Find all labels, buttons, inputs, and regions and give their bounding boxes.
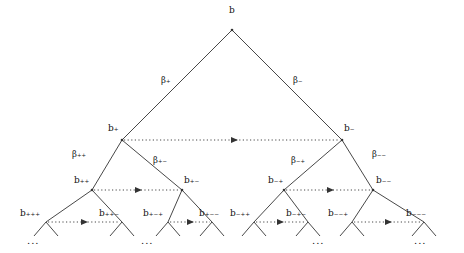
arrow-level3-b	[187, 219, 194, 225]
node-dot-pp	[91, 189, 94, 192]
arrow-level3-a	[81, 219, 88, 225]
edge-label-beta-plus-plus: β₊₊	[72, 150, 86, 159]
arrow-level3-c	[277, 219, 284, 225]
node-dot-mm	[372, 189, 375, 192]
node-label-bmmm: b₋₋₋	[406, 209, 426, 218]
node-dot-minus	[341, 139, 344, 142]
stub-mmp-left	[340, 222, 352, 236]
edge-plus-plusminus	[122, 140, 182, 190]
stub-ppp-right	[46, 222, 58, 236]
edge-root-plus	[122, 30, 232, 140]
stub-ppm-left	[110, 222, 122, 236]
ellipsis-left: ...	[27, 236, 40, 246]
stub-mpp-left	[242, 222, 254, 236]
node-label-bmp: b₋₊	[268, 176, 283, 185]
stub-mmm-left	[412, 222, 424, 236]
stub-mpp-right	[254, 222, 266, 236]
stub-ppm-right	[122, 222, 134, 236]
ellipsis-center-left: ...	[141, 236, 154, 246]
stub-mpm-left	[296, 222, 308, 236]
stub-pmp-right	[168, 222, 180, 236]
node-label-b: b	[229, 6, 235, 15]
node-label-bp: b₊	[108, 124, 119, 133]
stub-mmp-right	[352, 222, 364, 236]
node-label-bmpp: b₋₊₊	[230, 209, 250, 218]
node-label-bmmp: b₋₋₊	[328, 209, 348, 218]
stub-mmm-right	[424, 222, 436, 236]
arrow-level2-left	[135, 187, 142, 193]
diagram-canvas: b b₊ b₋ b₊₊ b₊₋ b₋₊ b₋₋ b₊₊₊ b₊₊₋ b₊₋₊ b…	[0, 0, 464, 253]
ellipsis-center-right: ...	[312, 236, 325, 246]
edge-minus-minusplus	[284, 140, 342, 190]
edge-pm-pmp	[168, 190, 182, 222]
node-dot-plus	[121, 139, 124, 142]
arrow-level2-right	[327, 187, 334, 193]
edge-label-beta-plus-minus: β₊₋	[153, 156, 167, 165]
node-label-bmpm: b₋₊₋	[286, 209, 306, 218]
edge-label-beta-plus: β₊	[161, 76, 170, 85]
node-label-bpm: b₊₋	[184, 176, 199, 185]
edge-label-beta-minus: β₋	[293, 76, 302, 85]
edge-pp-ppp	[46, 190, 92, 222]
edge-label-beta-minus-minus: β₋₋	[372, 150, 386, 159]
edge-plus-plusplus	[92, 140, 122, 190]
edge-root-minus	[232, 30, 342, 140]
edge-label-beta-minus-plus: β₋₊	[291, 156, 305, 165]
node-label-bpmp: b₊₋₊	[143, 209, 163, 218]
node-label-bm: b₋	[344, 124, 355, 133]
stub-pmp-left	[156, 222, 168, 236]
node-label-bppp: b₊₊₊	[20, 209, 40, 218]
node-label-bmm: b₋₋	[376, 176, 391, 185]
node-label-bppm: b₊₊₋	[99, 209, 119, 218]
stub-pmm-right	[212, 222, 224, 236]
tree-edges	[34, 30, 436, 236]
arrow-level1	[231, 137, 238, 143]
node-dot-pm	[181, 189, 184, 192]
edge-minus-minusminus	[342, 140, 373, 190]
arrow-level3-d	[385, 219, 392, 225]
stub-mpm-right	[308, 222, 320, 236]
edge-mm-mmp	[352, 190, 373, 222]
stub-pmm-left	[200, 222, 212, 236]
stub-ppp-left	[34, 222, 46, 236]
edge-mp-mpp	[254, 190, 284, 222]
ellipsis-right: ...	[414, 236, 427, 246]
node-label-bpp: b₊₊	[74, 176, 89, 185]
node-dot-root	[231, 29, 234, 32]
node-label-bpmm: b₊₋₋	[199, 209, 219, 218]
node-dot-mp	[283, 189, 286, 192]
